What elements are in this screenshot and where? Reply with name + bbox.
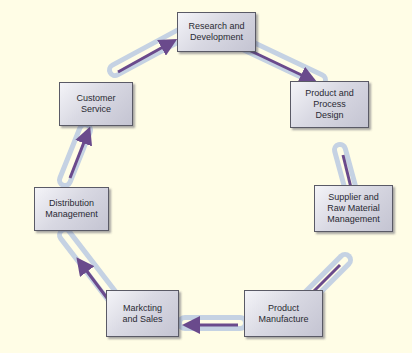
- supply-chain-cycle-diagram: Research and Development Product and Pro…: [0, 0, 412, 353]
- node-distribution-management: Distribution Management: [34, 187, 109, 231]
- node-product-manufacture: Product Manufacture: [244, 290, 323, 337]
- node-label: Distribution Management: [45, 198, 98, 220]
- node-label: Supplier and Raw Material Management: [327, 192, 380, 225]
- node-product-and-process-design: Product and Process Design: [290, 81, 369, 128]
- node-marketing-and-sales: Markcting and Sales: [106, 290, 179, 337]
- node-supplier-and-raw-material-management: Supplier and Raw Material Management: [314, 185, 393, 232]
- node-label: Research and Development: [188, 21, 244, 43]
- chain-links-and-arrows: [0, 0, 412, 353]
- node-research-and-development: Research and Development: [177, 12, 256, 52]
- node-label: Product Manufacture: [258, 303, 308, 325]
- node-label: Markcting and Sales: [122, 303, 162, 325]
- node-customer-service: Customer Service: [59, 82, 133, 126]
- node-label: Customer Service: [76, 93, 115, 115]
- node-label: Product and Process Design: [305, 88, 354, 121]
